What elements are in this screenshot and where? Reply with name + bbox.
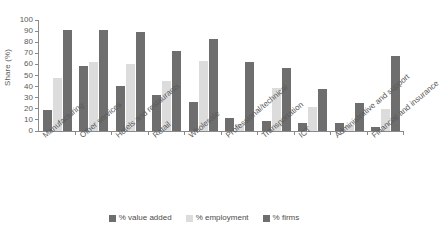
y-axis-tick-mark	[35, 86, 38, 87]
y-axis-tick-mark	[35, 131, 38, 132]
y-axis-tick-label: 70	[24, 49, 35, 57]
y-axis-tick-label: 50	[24, 72, 35, 80]
legend-swatch	[109, 215, 116, 222]
y-axis-tick-label: 30	[24, 94, 35, 102]
y-axis-tick-mark	[35, 64, 38, 65]
x-axis-category-labels: ManufacturingOther servicesHotels and re…	[39, 133, 404, 203]
y-axis-title: Share (%)	[0, 0, 14, 135]
y-axis-title-label: Share (%)	[3, 49, 12, 86]
plot-area: 0102030405060708090100	[38, 20, 404, 131]
legend-swatch	[263, 215, 270, 222]
legend-item[interactable]: % employment	[186, 214, 249, 222]
y-axis-tick-label: 100	[20, 16, 35, 24]
legend-swatch	[186, 215, 193, 222]
legend-item[interactable]: % firms	[263, 214, 300, 222]
bar-group	[295, 20, 332, 131]
y-axis-tick-mark	[35, 108, 38, 109]
y-axis-tick-label: 40	[24, 83, 35, 91]
y-axis-tick-mark	[35, 75, 38, 76]
legend-label: % value added	[119, 214, 172, 222]
y-axis-tick-label: 60	[24, 60, 35, 68]
y-axis-tick-label: 80	[24, 38, 35, 46]
y-axis-tick-mark	[35, 20, 38, 21]
y-axis-tick-mark	[35, 42, 38, 43]
legend-label: % employment	[196, 214, 249, 222]
y-axis-tick-mark	[35, 97, 38, 98]
bars-layer	[39, 20, 404, 131]
chart-legend: % value added% employment% firms	[0, 214, 408, 222]
bar	[79, 66, 88, 131]
y-axis-tick-label: 10	[24, 116, 35, 124]
y-axis-tick-mark	[35, 53, 38, 54]
y-axis-tick-label: 90	[24, 27, 35, 35]
bar-group	[149, 20, 186, 131]
legend-label: % firms	[273, 214, 300, 222]
y-axis-tick-mark	[35, 119, 38, 120]
y-axis-tick-label: 20	[24, 105, 35, 113]
bar	[318, 89, 327, 131]
legend-item[interactable]: % value added	[109, 214, 172, 222]
y-axis-tick-mark	[35, 31, 38, 32]
